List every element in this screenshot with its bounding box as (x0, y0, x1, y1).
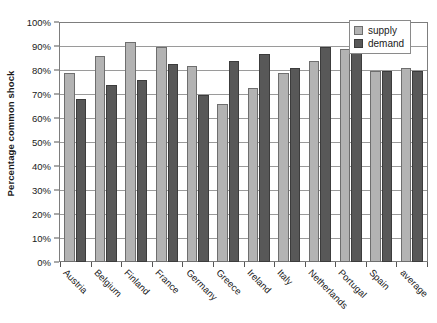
x-label-italy: Italy (275, 267, 295, 287)
bar-demand-average (412, 71, 423, 262)
bar-group (121, 23, 152, 262)
y-tick-label: 90% (32, 41, 51, 52)
y-tick-label: 30% (32, 185, 51, 196)
bar-supply-austria (64, 73, 75, 262)
bar-group (152, 23, 183, 262)
x-label-austria: Austria (61, 267, 90, 296)
legend-label-supply: supply (368, 25, 397, 36)
bar-supply-average (401, 68, 412, 262)
y-tick-label: 0% (37, 257, 51, 268)
bar-group (244, 23, 275, 262)
bars-layer (60, 23, 427, 262)
bar-demand-netherlands (320, 47, 331, 262)
bar-supply-ireland (248, 88, 259, 262)
x-label-ireland: Ireland (245, 267, 273, 295)
y-tick-label: 10% (32, 233, 51, 244)
x-label-average: average (398, 267, 430, 299)
bar-supply-italy (278, 73, 289, 262)
bar-demand-finland (137, 80, 148, 262)
y-tick-label: 80% (32, 65, 51, 76)
x-label-greece: Greece (214, 267, 244, 297)
x-label-belgium: Belgium (92, 267, 124, 299)
bar-demand-austria (76, 99, 87, 262)
bar-demand-germany (198, 95, 209, 262)
bar-demand-belgium (106, 85, 117, 262)
bar-supply-germany (187, 66, 198, 262)
x-label-france: France (153, 267, 182, 296)
bar-demand-greece (229, 61, 240, 262)
bar-demand-ireland (259, 54, 270, 262)
bar-group (366, 23, 397, 262)
bar-supply-greece (217, 104, 228, 262)
bar-group (274, 23, 305, 262)
bar-demand-portugal (351, 37, 362, 262)
x-axis-labels: AustriaBelgiumFinlandFranceGermanyGreece… (60, 267, 437, 323)
bar-supply-netherlands (309, 61, 320, 262)
y-tick-label: 70% (32, 89, 51, 100)
y-tick-label: 20% (32, 209, 51, 220)
bar-group (335, 23, 366, 262)
bar-supply-france (156, 47, 167, 262)
y-tick-label: 100% (27, 17, 51, 28)
bar-group (182, 23, 213, 262)
x-label-spain: Spain (367, 267, 392, 292)
bar-supply-belgium (95, 56, 106, 262)
y-tick-label: 60% (32, 113, 51, 124)
bar-demand-italy (290, 68, 301, 262)
legend-item-demand: demand (354, 37, 404, 50)
bar-group (305, 23, 336, 262)
legend-swatch-demand-icon (354, 39, 363, 48)
legend-swatch-supply-icon (354, 26, 363, 35)
chart-legend: supply demand (349, 20, 411, 54)
bar-group (396, 23, 427, 262)
bar-supply-portugal (340, 49, 351, 262)
bar-group (213, 23, 244, 262)
y-tick-label: 50% (32, 137, 51, 148)
bar-group (60, 23, 91, 262)
bar-demand-spain (382, 71, 393, 262)
x-label-germany: Germany (184, 267, 219, 302)
bar-chart: Percentage common shock 0%10%20%30%40%50… (0, 0, 437, 323)
y-axis-ticks: 0%10%20%30%40%50%60%70%80%90%100% (0, 0, 59, 323)
y-tick-label: 40% (32, 161, 51, 172)
bar-demand-france (168, 64, 179, 262)
legend-label-demand: demand (368, 38, 404, 49)
legend-item-supply: supply (354, 24, 404, 37)
bar-supply-spain (370, 71, 381, 262)
bar-group (91, 23, 122, 262)
bar-supply-finland (125, 42, 136, 262)
x-label-finland: Finland (123, 267, 153, 297)
